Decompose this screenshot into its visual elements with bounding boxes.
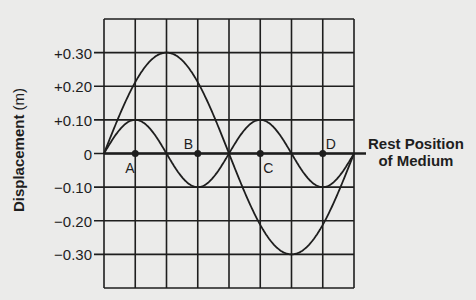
y-axis-label: Displacement (m) [10, 88, 27, 212]
rest-position-annotation: Rest Position of Medium [368, 135, 464, 169]
point-label-b: B [184, 136, 193, 152]
y-tick-label: 0 [84, 145, 92, 162]
point-label-a: A [125, 160, 134, 176]
point-c-marker [257, 150, 264, 157]
point-a-marker [132, 150, 139, 157]
point-label-c: C [263, 160, 273, 176]
y-tick-label: −0.10 [54, 179, 92, 196]
y-tick-label: +0.30 [54, 44, 92, 61]
point-label-d: D [326, 136, 336, 152]
y-tick-label: −0.30 [54, 246, 92, 263]
annotation-line-2: of Medium [368, 152, 464, 169]
y-tick-label: +0.20 [54, 78, 92, 95]
point-b-marker [194, 150, 201, 157]
y-tick-label: +0.10 [54, 111, 92, 128]
annotation-line-1: Rest Position [368, 135, 464, 152]
y-tick-label: −0.20 [54, 212, 92, 229]
